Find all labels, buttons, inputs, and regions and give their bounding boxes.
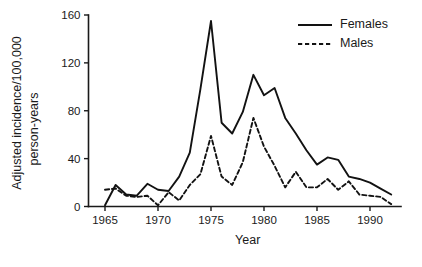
x-tick-label-group: 196519701975198019851990: [92, 214, 383, 226]
legend-label-males: Males: [340, 36, 373, 50]
y-tick-label-40: 40: [68, 153, 81, 165]
y-tick-label-120: 120: [61, 57, 80, 69]
legend-label-females: Females: [340, 17, 388, 31]
x-tick-label-1980: 1980: [251, 214, 277, 226]
x-axis-title: Year: [235, 233, 260, 247]
y-axis-title-line1: Adjusted incidence/100,000: [10, 36, 24, 190]
x-tick-label-1970: 1970: [145, 214, 171, 226]
chart-legend: FemalesMales: [298, 17, 388, 50]
x-tick-label-1965: 1965: [92, 214, 118, 226]
series-line-males: [105, 118, 391, 205]
x-tick-label-1985: 1985: [304, 214, 330, 226]
line-chart: 04080120160 196519701975198019851990 Adj…: [0, 0, 422, 267]
chart-figure: 04080120160 196519701975198019851990 Adj…: [0, 0, 422, 267]
y-tick-label-0: 0: [74, 201, 80, 213]
y-axis-title-line2: person-years: [27, 93, 41, 166]
y-tick-label-160: 160: [61, 9, 80, 21]
y-tick-label-80: 80: [68, 105, 81, 117]
x-tick-label-1990: 1990: [357, 214, 383, 226]
x-tick-label-1975: 1975: [198, 214, 224, 226]
y-tick-label-group: 04080120160: [61, 9, 80, 213]
